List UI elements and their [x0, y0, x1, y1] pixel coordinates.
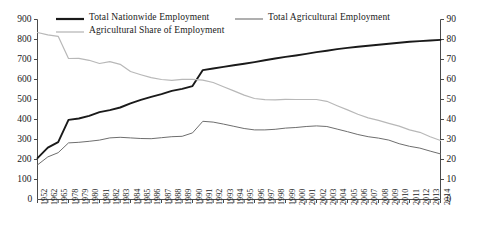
- x-axis-tick-label: 1994: [237, 189, 245, 205]
- y-axis-tick-label: 600: [0, 75, 32, 85]
- x-axis-tick-label: 1995: [247, 189, 255, 205]
- y2-axis-tick-label: 60: [447, 75, 457, 85]
- x-axis-tick-label: 2009: [392, 189, 400, 205]
- series-line-1: [38, 121, 441, 165]
- x-axis-tick-label: 1991: [206, 189, 214, 205]
- x-axis-tick-label: 1985: [144, 189, 152, 205]
- x-axis-tick-label: 1982: [113, 189, 121, 205]
- x-axis-tick-label: 2000: [299, 189, 307, 205]
- x-axis-tick-label: 2004: [340, 189, 348, 205]
- x-axis-tick-label: 1996: [258, 189, 266, 205]
- y-axis-tick-label: 400: [0, 115, 32, 125]
- x-axis-tick-label: 1965: [61, 189, 69, 205]
- x-axis-tick-label: 1952: [41, 189, 49, 205]
- y2-axis-tick-label: 30: [447, 135, 457, 145]
- x-axis-tick-label: 1992: [216, 189, 224, 205]
- y2-axis-tick-label: 90: [447, 15, 457, 25]
- y-axis-origin-label: 0: [28, 195, 33, 205]
- x-axis-tick-label: 1979: [82, 189, 90, 205]
- x-axis-tick-label: 1978: [72, 189, 80, 205]
- y-axis-tick-label: 200: [0, 155, 32, 165]
- x-axis-tick-label: 2012: [423, 189, 431, 205]
- x-axis-tick-label: 2007: [371, 189, 379, 205]
- y-axis-tick-label: 300: [0, 135, 32, 145]
- x-axis-tick-label: 1962: [51, 189, 59, 205]
- x-axis-tick-label: 1984: [134, 189, 142, 205]
- x-axis-tick-label: 2003: [330, 189, 338, 205]
- x-axis-tick-label: 1993: [227, 189, 235, 205]
- x-axis-tick-label: 1981: [103, 189, 111, 205]
- x-axis-tick-label: 1983: [123, 189, 131, 205]
- y2-axis-tick-label: 70: [447, 55, 457, 65]
- x-axis-tick-label: 2005: [351, 189, 359, 205]
- x-axis-tick-label: 1999: [289, 189, 297, 205]
- plot-area: [0, 0, 478, 246]
- x-axis-tick-label: 2001: [309, 189, 317, 205]
- x-axis-tick-label: 1998: [278, 189, 286, 205]
- y-axis-tick-label: 900: [0, 15, 32, 25]
- y-axis-tick-label: 800: [0, 35, 32, 45]
- x-axis-tick-label: 2010: [402, 189, 410, 205]
- x-axis-tick-label: 2006: [361, 189, 369, 205]
- x-axis-tick-label: 2013: [433, 189, 441, 205]
- y2-axis-tick-label: 20: [447, 155, 457, 165]
- x-axis-tick-label: 1990: [196, 189, 204, 205]
- x-axis-tick-label: 2011: [413, 189, 421, 205]
- x-axis-tick-label: 1987: [165, 189, 173, 205]
- y2-axis-tick-label: 40: [447, 115, 457, 125]
- y-axis-tick-label: 700: [0, 55, 32, 65]
- x-axis-tick-label: 1988: [175, 189, 183, 205]
- series-line-2: [38, 33, 441, 141]
- x-axis-tick-label: 2002: [320, 189, 328, 205]
- x-axis-tick-label: 1980: [92, 189, 100, 205]
- x-axis-tick-label: 2008: [382, 189, 390, 205]
- y2-axis-tick-label: 50: [447, 95, 457, 105]
- x-axis-tick-label: 1986: [154, 189, 162, 205]
- y2-axis-tick-label: 10: [447, 175, 457, 185]
- y-axis-tick-label: 100: [0, 175, 32, 185]
- employment-line-chart: Total Nationwide Employment Total Agricu…: [0, 0, 478, 246]
- x-axis-tick-label: 1997: [268, 189, 276, 205]
- y-axis-tick-label: 500: [0, 95, 32, 105]
- x-axis-tick-label: 1989: [185, 189, 193, 205]
- y2-axis-tick-label: 80: [447, 35, 457, 45]
- x-axis-tick-label: 2014: [444, 189, 452, 205]
